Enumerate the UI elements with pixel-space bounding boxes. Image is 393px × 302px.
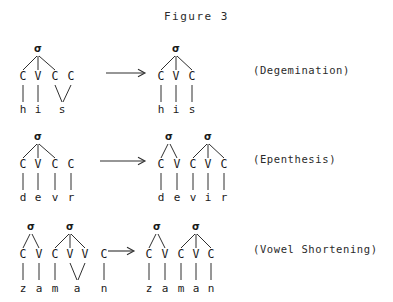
rule-arrow-epenthesis [98,154,154,168]
segment-m: m [52,282,59,295]
slot-c3: C [221,157,228,171]
input-tree-vowel-shortening: σ σ C V C V V C z a m [14,218,120,300]
slot-c3: C [208,247,215,261]
rule-arrow-vowel-shortening [107,244,141,258]
slot-v1: V [162,247,169,261]
slot-v1: V [174,157,181,171]
sigma-node-2: σ [66,221,74,232]
sigma-node-1: σ [165,131,173,142]
rule-row-epenthesis: σ C V C C d e v r [0,128,393,208]
slot-v3: V [82,247,89,261]
slot-v2: V [205,157,212,171]
segment-e: e [174,191,181,204]
slot-c2: C [178,247,185,261]
sigma-node-1: σ [153,221,161,232]
segment-r: r [221,191,228,204]
slot-c1: C [20,157,27,171]
slot-c1: C [20,69,27,83]
slot-c2: C [52,157,59,171]
segment-m: m [178,282,185,295]
segment-a1: a [162,282,169,295]
segment-e: e [35,191,42,204]
segment-h: h [158,103,165,116]
slot-c1: C [146,247,153,261]
segment-i: i [35,103,42,116]
segment-z: z [20,282,27,295]
segment-v: v [52,191,59,204]
slot-c2: C [52,69,59,83]
segment-s: s [59,103,66,116]
sigma-node-2: σ [204,131,212,142]
slot-c2: C [189,69,196,83]
rule-row-degemination: σ C V C C h i s σ [0,40,393,120]
rule-row-vowel-shortening: σ σ C V C V V C z a m [0,218,393,300]
output-tree-degemination: σ C V C h i s [152,40,222,120]
slot-c3: C [68,69,75,83]
slot-c1: C [20,247,27,261]
output-tree-epenthesis: σ σ C V C V C d e v i [152,128,252,208]
segment-i: i [205,191,212,204]
segment-s: s [189,103,196,116]
slot-c2: C [52,247,59,261]
process-label-degemination: (Degemination) [253,64,350,76]
slot-v1: V [36,247,43,261]
segment-h: h [20,103,27,116]
sigma-node: σ [34,131,42,142]
rule-arrow-degemination [104,66,154,80]
output-tree-vowel-shortening: σ σ C V C V C z a m a [140,218,240,300]
slot-c1: C [158,69,165,83]
sigma-node: σ [172,43,180,54]
slot-c1: C [158,157,165,171]
segment-a1: a [36,282,43,295]
segment-i: i [173,103,180,116]
segment-d: d [158,191,165,204]
sigma-node-2: σ [192,221,200,232]
figure-title: Figure 3 [0,10,393,23]
segment-v: v [190,191,197,204]
segment-a2: a [193,282,200,295]
segment-d: d [20,191,27,204]
slot-c2: C [190,157,197,171]
slot-v1: V [173,69,180,83]
segment-z: z [146,282,153,295]
slot-c3: C [68,157,75,171]
segment-a2: a [74,282,81,295]
segment-n: n [208,282,215,295]
sigma-node-1: σ [27,221,35,232]
sigma-node: σ [34,43,42,54]
process-label-epenthesis: (Epenthesis) [253,153,336,165]
slot-v1: V [35,69,42,83]
input-tree-degemination: σ C V C C h i s [14,40,100,120]
slot-v1: V [35,157,42,171]
figure-canvas: Figure 3 σ C V C C h i s [0,0,393,302]
process-label-vowel-shortening: (Vowel Shortening) [253,243,378,255]
slot-v2: V [67,247,74,261]
input-tree-epenthesis: σ C V C C d e v r [14,128,100,208]
segment-r: r [68,191,75,204]
slot-v2: V [193,247,200,261]
segment-n: n [101,282,108,295]
